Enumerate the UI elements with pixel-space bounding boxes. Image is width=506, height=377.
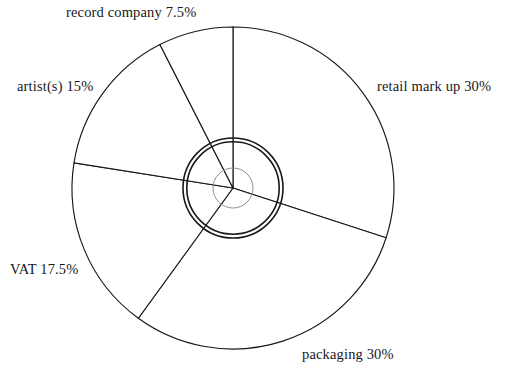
pie-chart-page: record company 7.5% retail mark up 30% a… (0, 0, 506, 377)
cd-price-breakdown-pie-chart (0, 0, 506, 377)
slice-label-vat: VAT 17.5% (10, 261, 79, 278)
slice-label-record-company: record company 7.5% (66, 4, 196, 21)
slice-label-retail-mark-up: retail mark up 30% (377, 78, 491, 95)
slice-label-packaging: packaging 30% (302, 346, 394, 363)
pie-slices (72, 27, 394, 349)
slice-label-artists: artist(s) 15% (17, 78, 93, 95)
